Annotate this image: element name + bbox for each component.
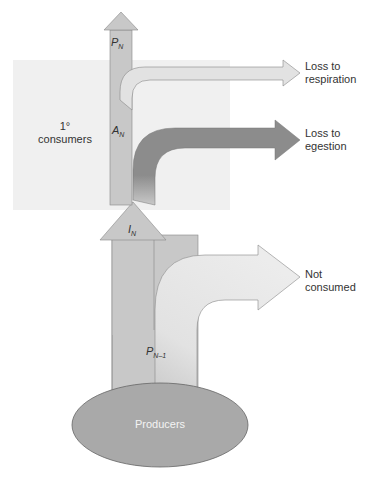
ingestion-stem bbox=[112, 230, 154, 335]
respiration-label: Loss to respiration bbox=[305, 60, 356, 86]
consumers-label: 1° consumers bbox=[32, 120, 98, 146]
not-consumed-arrow bbox=[155, 245, 300, 400]
production-arrowhead bbox=[104, 12, 138, 30]
symbol-in: IN bbox=[128, 223, 136, 237]
assimilation-stem bbox=[110, 30, 132, 205]
symbol-an: AN bbox=[112, 124, 124, 138]
not-consumed-label: Not consumed bbox=[305, 268, 356, 294]
symbol-pn: PN bbox=[111, 36, 123, 50]
symbol-pn-minus-1: PN–1 bbox=[146, 345, 166, 359]
producers-label: Producers bbox=[110, 418, 210, 431]
egestion-label: Loss to egestion bbox=[305, 127, 347, 153]
